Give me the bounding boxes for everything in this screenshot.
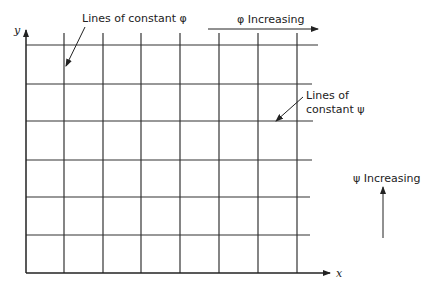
flow-net-diagram [0, 0, 433, 283]
grid-horizontal-lines [26, 45, 318, 235]
annotation-arrows [66, 27, 383, 238]
axes [26, 30, 330, 273]
psi-lines-pointer [276, 97, 303, 121]
grid-vertical-lines [64, 33, 297, 273]
psi-lines-label-line2: constant ψ [306, 103, 365, 116]
psi-lines-label-line1: Lines of [306, 89, 349, 102]
y-axis-label: y [14, 24, 20, 37]
phi-increasing-label: φ Increasing [237, 13, 305, 26]
phi-lines-label: Lines of constant φ [82, 12, 187, 25]
phi-lines-pointer [66, 27, 85, 66]
x-axis-label: x [336, 267, 342, 280]
psi-increasing-label: ψ Increasing [353, 172, 421, 185]
